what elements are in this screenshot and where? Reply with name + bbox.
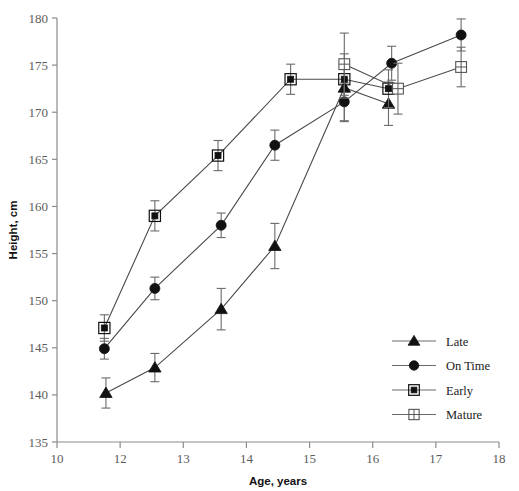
marker-filled-circle [150,283,160,293]
x-tick-label: 17 [429,451,443,466]
marker-filled-circle [456,30,466,40]
x-tick-label: 18 [493,451,506,466]
data-point [456,30,466,40]
y-tick-label: 170 [29,105,49,120]
data-point [339,59,350,70]
legend-label: Early [446,384,474,398]
x-tick-label: 14 [240,451,254,466]
y-axis-title: Height, cm [7,201,19,260]
data-point [99,344,109,354]
y-tick-label: 165 [29,152,49,167]
marker-filled-square [215,153,221,159]
chart-container: 135140145150155160165170175180 101213141… [0,0,519,491]
marker-filled-square [386,86,392,92]
marker-filled-square [101,325,107,331]
height-vs-age-line-chart: 135140145150155160165170175180 101213141… [0,0,519,491]
y-tick-label: 150 [29,293,49,308]
y-tick-label: 175 [29,58,49,73]
y-tick-label: 160 [29,199,49,214]
x-tick-label: 12 [114,451,127,466]
data-point [270,140,280,150]
data-point [393,83,404,94]
marker-filled-circle [216,220,226,230]
data-point [216,220,226,230]
marker-filled-circle [270,140,280,150]
x-axis-title: Age, years [249,475,307,487]
y-tick-label: 135 [29,435,49,450]
marker-filled-square [152,213,158,219]
y-tick-label: 155 [29,246,49,261]
data-point [456,62,467,73]
y-tick-label: 180 [29,11,49,26]
y-tick-label: 145 [29,340,49,355]
x-tick-label: 13 [177,451,190,466]
data-point [150,283,160,293]
legend-label: Late [446,335,469,349]
y-tick-label: 140 [29,387,49,402]
legend-label: Mature [446,408,483,422]
marker-filled-square [288,76,294,82]
marker-filled-circle [99,344,109,354]
x-tick-label: 16 [366,451,380,466]
marker-filled-circle [409,361,419,371]
legend-label: On Time [446,359,491,373]
x-tick-label: 10 [51,451,64,466]
marker-filled-square [411,387,417,393]
x-tick-label: 15 [303,451,316,466]
